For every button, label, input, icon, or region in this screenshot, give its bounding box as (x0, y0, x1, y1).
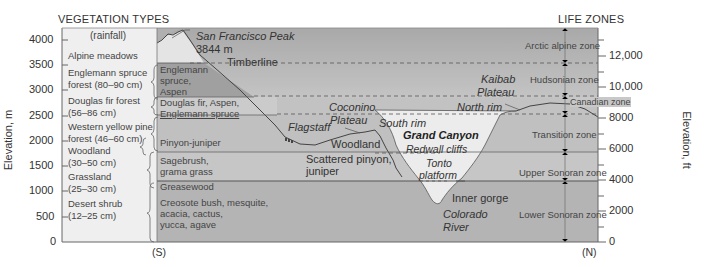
redwall-label: Redwall cliffs (406, 143, 467, 155)
band-sagebrush-1: Sagebrush, (160, 155, 209, 166)
coconino-2: Plateau (330, 114, 367, 126)
south-label: (S) (152, 246, 166, 258)
left-tick-3000: 3000 (29, 83, 53, 95)
life-zones-header: LIFE ZONES (558, 13, 624, 25)
right-tick-0: 0 (609, 235, 615, 247)
grand-canyon-label: Grand Canyon (403, 129, 479, 141)
veg-woodland: Woodland (68, 145, 111, 156)
left-axis-label: Elevation, m (2, 110, 14, 171)
right-tick-12000: 12,000 (609, 49, 643, 61)
peak-name: San Francisco Peak (196, 30, 294, 42)
colorado-1: Colorado (443, 208, 488, 220)
kaibab-2: Plateau (477, 86, 514, 98)
zone-upper-sonoran: Upper Sonoran zone (519, 167, 607, 178)
coconino-1: Coconino (329, 101, 375, 113)
band-creosote-1: Creosote bush, mesquite, (160, 197, 268, 208)
woodland-label: Woodland (331, 139, 380, 150)
band-englemann-3: Aspen (160, 86, 187, 97)
veg-western-pine: Western yellow pine (68, 121, 153, 132)
left-tick-4000: 4000 (29, 33, 53, 45)
band-englemann-1: Englemann (160, 64, 208, 75)
right-axis-label: Elevation, ft (681, 111, 693, 168)
zone-hudsonian: Hudsonian zone (530, 74, 599, 85)
veg-englemann: Englemann spruce (68, 67, 147, 78)
north-label: (N) (582, 246, 597, 258)
zone-canadian: Canadian zone (570, 97, 631, 107)
veg-grassland-rain: (25–30 cm) (68, 183, 116, 194)
zone-arctic-alpine: Arctic alpine zone (525, 40, 600, 51)
colorado-2: River (443, 221, 469, 233)
band-sagebrush-2: grama grass (160, 166, 213, 177)
peak-elevation: 3844 m (196, 44, 233, 55)
band-creosote-3: yucca, agave (160, 219, 216, 230)
veg-desert-shrub: Desert shrub (68, 198, 122, 209)
left-tick-1500: 1500 (29, 159, 53, 171)
scattered-1: Scattered pinyon, (306, 154, 392, 165)
band-douglas-1: Douglas fir, Aspen, (160, 97, 239, 108)
veg-woodland-rain: (30–50 cm) (68, 157, 116, 168)
timberline-label: Timberline (227, 57, 278, 68)
right-tick-8000: 8000 (609, 111, 633, 123)
veg-douglas-rain: (56–86 cm) (68, 107, 116, 118)
veg-alpine-meadows: Alpine meadows (68, 50, 138, 61)
vegetation-types-header: VEGETATION TYPES (58, 13, 169, 25)
south-rim-label: South rim (379, 117, 426, 129)
band-pinyon: Pinyon-juniper (160, 137, 221, 148)
left-tick-3500: 3500 (29, 58, 53, 70)
scattered-2: juniper (306, 166, 339, 177)
tonto-2: platform (419, 169, 457, 181)
zone-lower-sonoran: Lower Sonoran zone (519, 209, 607, 220)
band-englemann-2: spruce, (160, 75, 191, 86)
veg-desert-shrub-rain: (12–25 cm) (68, 210, 116, 221)
band-douglas-2: Englemann spruce (160, 108, 239, 119)
left-tick-2500: 2500 (29, 109, 53, 121)
right-tick-2000: 2000 (609, 204, 633, 216)
kaibab-1: Kaibab (481, 73, 515, 85)
band-creosote-2: acacia, cactus, (160, 208, 223, 219)
inner-gorge-label: Inner gorge (452, 193, 508, 204)
flagstaff-label: Flagstaff (288, 121, 330, 133)
veg-western-pine-rain: forest (46–60 cm) (68, 133, 142, 144)
zone-transition: Transition zone (532, 129, 597, 140)
tonto-1: Tonto (426, 157, 452, 169)
veg-grassland: Grassland (68, 171, 111, 182)
veg-englemann-rain: forest (80–90 cm) (68, 79, 142, 90)
rainfall-label: (rainfall) (90, 30, 126, 41)
right-tick-4000: 4000 (609, 173, 633, 185)
left-tick-0: 0 (50, 235, 56, 247)
band-greasewood: Greasewood (160, 181, 214, 192)
north-rim-label: North rim (457, 101, 502, 113)
right-tick-6000: 6000 (609, 142, 633, 154)
left-tick-1000: 1000 (29, 184, 53, 196)
left-tick-2000: 2000 (29, 134, 53, 146)
right-tick-10000: 10,000 (609, 80, 643, 92)
veg-douglas: Douglas fir forest (68, 95, 140, 106)
left-tick-500: 500 (36, 210, 54, 222)
